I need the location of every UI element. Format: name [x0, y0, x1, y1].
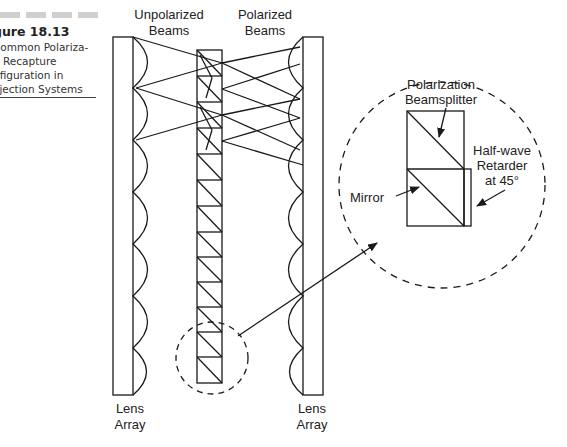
polarized-label-line1: Polarized: [238, 7, 292, 22]
detail-half-wave-retarder: [464, 169, 471, 226]
polarized-label-line2: Beams: [245, 23, 286, 38]
pbs-label-line1: Polarization: [407, 77, 475, 92]
pbs-arrow: [439, 108, 446, 137]
polarization-recapture-diagram: Unpolarized Beams Polarized Beams Lens A…: [0, 0, 567, 447]
retarder-label-line3: at 45°: [485, 173, 519, 188]
retarder-label-line1: Half-wave: [473, 143, 531, 158]
unpolarized-label-line2: Beams: [149, 23, 190, 38]
right-lens-array: [289, 37, 324, 395]
zoom-pointer-arrow: [238, 243, 377, 336]
left-lens-array: [113, 37, 148, 395]
right-lens-label-line1: Lens: [298, 401, 327, 416]
retarder-label-line2: Retarder: [477, 158, 528, 173]
mirror-label: Mirror: [350, 190, 385, 205]
polarized-beams: [222, 47, 303, 165]
unpolarized-label-line1: Unpolarized: [134, 7, 203, 22]
beamsplitter-array: [197, 50, 222, 383]
left-lens-label-line1: Lens: [116, 401, 145, 416]
retarder-arrow: [477, 190, 505, 206]
pbs-label-line2: Beamsplitter: [405, 92, 478, 107]
detail-beamsplitter: [407, 111, 464, 226]
left-lens-label-line2: Array: [114, 417, 146, 432]
right-lens-label-line2: Array: [296, 417, 328, 432]
